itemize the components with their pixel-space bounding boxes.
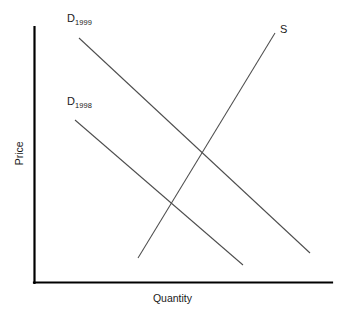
demand-1998-label-letter: D — [67, 95, 75, 107]
demand-1999-label: D1999 — [67, 13, 92, 27]
demand-1999-label-letter: D — [67, 12, 75, 24]
supply-label: S — [280, 24, 287, 35]
demand-1999-label-subscript: 1999 — [75, 18, 92, 27]
chart-plot-area — [0, 0, 345, 318]
supply-curve — [138, 33, 275, 258]
y-axis-label: Price — [14, 125, 25, 181]
demand-1998-label: D1998 — [67, 96, 92, 110]
supply-label-letter: S — [280, 23, 287, 35]
demand-curve-1999 — [79, 38, 310, 253]
demand-1998-label-subscript: 1998 — [75, 101, 92, 110]
x-axis-label: Quantity — [0, 293, 345, 304]
supply-demand-chart: D1999 D1998 S Price Quantity — [0, 0, 345, 318]
demand-curve-1998 — [75, 120, 243, 265]
